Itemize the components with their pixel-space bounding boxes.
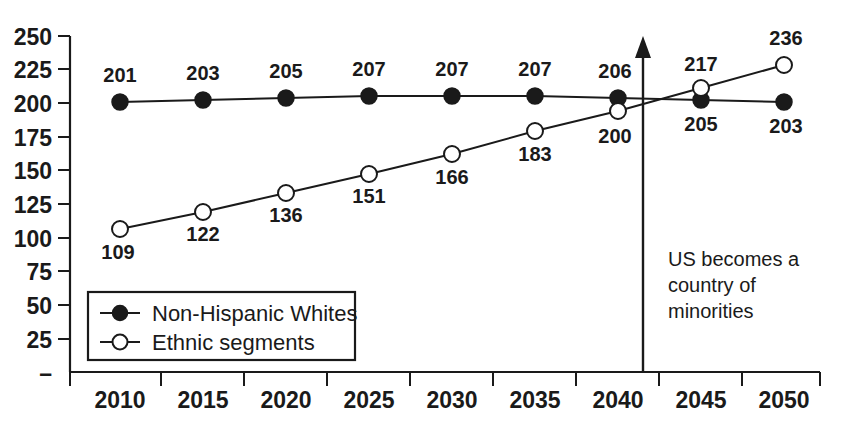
data-point-nhw-2020 [278, 90, 294, 106]
y-tick-label-175: 175 [14, 125, 53, 151]
data-label-eth-2040: 200 [598, 125, 631, 147]
data-label-nhw-2035: 207 [518, 58, 551, 80]
data-point-nhw-2010 [112, 94, 128, 110]
annotation-crossover-text: US becomes a country of minorities [668, 248, 800, 322]
data-point-eth-2035 [527, 123, 543, 139]
data-label-nhw-2020: 205 [269, 60, 302, 82]
data-label-eth-2010: 109 [101, 241, 134, 263]
legend-label-ethnic-segments: Ethnic segments [152, 330, 315, 355]
x-tick-label-2025: 2025 [343, 387, 394, 413]
annotation-line-2: country of [668, 274, 756, 296]
y-tick-label-225: 225 [14, 57, 53, 83]
data-point-eth-2030 [444, 146, 460, 162]
chart-canvas: 250 225 200 175 150 125 100 75 50 25 – [0, 0, 850, 443]
data-point-eth-2050 [776, 57, 792, 73]
x-tick-label-2015: 2015 [177, 387, 228, 413]
x-tick-label-2035: 2035 [509, 387, 560, 413]
x-tick-label-2020: 2020 [260, 387, 311, 413]
data-label-eth-2030: 166 [435, 166, 468, 188]
y-tick-label-200: 200 [14, 91, 52, 117]
data-point-eth-2020 [278, 185, 294, 201]
data-point-eth-2025 [361, 166, 377, 182]
data-point-eth-2040 [610, 103, 626, 119]
legend: Non-Hispanic Whites Ethnic segments [88, 292, 357, 360]
data-point-nhw-2030 [444, 88, 460, 104]
data-label-nhw-2050: 203 [769, 115, 802, 137]
data-label-eth-2020: 136 [269, 204, 302, 226]
data-label-nhw-2025: 207 [352, 58, 385, 80]
y-tick-label-50: 50 [26, 293, 52, 319]
x-tick-label-2045: 2045 [675, 387, 726, 413]
filled-circle-icon [113, 306, 128, 321]
y-tick-label-250: 250 [14, 24, 52, 50]
legend-label-non-hispanic-whites: Non-Hispanic Whites [152, 301, 357, 326]
data-label-eth-2025: 151 [352, 185, 385, 207]
x-tick-label-2030: 2030 [426, 387, 477, 413]
data-label-nhw-2010: 201 [103, 64, 136, 86]
x-tick-label-2050: 2050 [758, 387, 809, 413]
x-tick-label-2040: 2040 [592, 387, 643, 413]
data-point-eth-2010 [112, 221, 128, 237]
data-label-eth-2035: 183 [518, 143, 551, 165]
y-axis: 250 225 200 175 150 125 100 75 50 25 – [14, 24, 70, 386]
data-label-eth-2015: 122 [186, 223, 219, 245]
data-label-nhw-2040: 206 [598, 60, 631, 82]
data-point-nhw-2035 [527, 88, 543, 104]
x-axis: 2010 2015 2020 2025 2030 2035 2040 2045 … [70, 372, 820, 413]
y-tick-label-75: 75 [26, 259, 52, 285]
crossover-arrow [635, 36, 651, 372]
line-chart-figure: 250 225 200 175 150 125 100 75 50 25 – [0, 0, 850, 443]
y-tick-label-150: 150 [14, 158, 52, 184]
crossover-arrow-head [635, 36, 651, 58]
y-tick-label-25: 25 [26, 327, 52, 353]
data-label-eth-2045: 217 [684, 53, 717, 75]
data-point-nhw-2050 [776, 94, 792, 110]
data-label-nhw-2030: 207 [435, 58, 468, 80]
data-label-eth-2050: 236 [769, 27, 802, 49]
data-point-eth-2015 [195, 204, 211, 220]
annotation-line-1: US becomes a [668, 248, 800, 270]
data-label-nhw-2015: 203 [186, 62, 219, 84]
y-tick-label-zero: – [39, 360, 52, 386]
x-tick-label-2010: 2010 [94, 387, 145, 413]
y-tick-label-100: 100 [14, 226, 52, 252]
data-label-nhw-2045: 205 [684, 113, 717, 135]
open-circle-icon [113, 335, 128, 350]
data-point-eth-2045 [693, 80, 709, 96]
y-tick-label-125: 125 [14, 192, 53, 218]
annotation-line-3: minorities [668, 300, 754, 322]
data-point-nhw-2025 [361, 88, 377, 104]
data-point-nhw-2015 [195, 92, 211, 108]
